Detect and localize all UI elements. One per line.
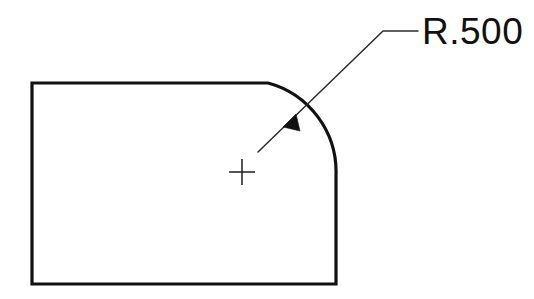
technical-drawing-canvas: R.500	[0, 0, 534, 299]
drawing-viewport: R.500	[0, 0, 534, 299]
part-outline-path	[32, 83, 336, 284]
radius-dimension-label: R.500	[422, 11, 523, 52]
leader-arrowhead	[283, 114, 300, 131]
radius-leader-line	[258, 31, 418, 152]
center-mark-cross	[229, 159, 255, 185]
